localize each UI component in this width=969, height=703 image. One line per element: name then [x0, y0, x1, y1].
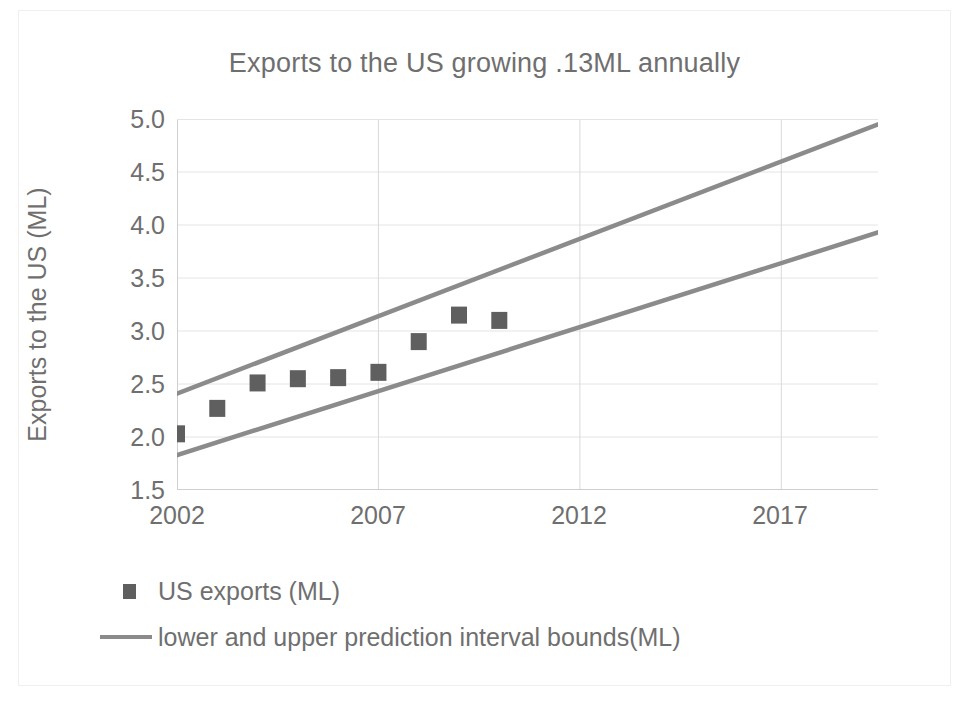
data-point-marker: [330, 369, 346, 386]
x-tick-label: 2007: [308, 503, 448, 528]
data-point-marker: [209, 400, 225, 417]
data-point-marker: [177, 425, 185, 442]
x-tick-label: 2002: [107, 503, 247, 528]
data-point-marker: [411, 333, 427, 350]
plot-svg: [177, 119, 878, 490]
data-point-marker: [370, 364, 386, 381]
data-point-marker: [250, 374, 266, 391]
legend-square-marker-icon: [100, 584, 158, 599]
axis-lines: [177, 119, 878, 490]
chart-legend: US exports (ML) lower and upper predicti…: [100, 568, 900, 660]
prediction-bound-line: [177, 232, 878, 455]
x-tick-label: 2017: [710, 503, 850, 528]
x-tick-label: 2012: [509, 503, 649, 528]
data-point-marker: [451, 307, 467, 324]
prediction-bound-line: [177, 124, 878, 393]
legend-item-label: lower and upper prediction interval boun…: [158, 623, 681, 652]
chart-page: Exports to the US growing .13ML annually…: [0, 0, 969, 703]
data-point-marker: [491, 312, 507, 329]
plot-area: [177, 119, 878, 490]
prediction-interval-lines: [177, 124, 878, 455]
legend-item-us-exports[interactable]: US exports (ML): [100, 568, 900, 614]
data-point-marker: [290, 370, 306, 387]
legend-item-prediction-bounds[interactable]: lower and upper prediction interval boun…: [100, 614, 900, 660]
legend-item-label: US exports (ML): [158, 577, 340, 606]
legend-line-marker-icon: [100, 635, 158, 639]
gridlines: [177, 119, 878, 490]
